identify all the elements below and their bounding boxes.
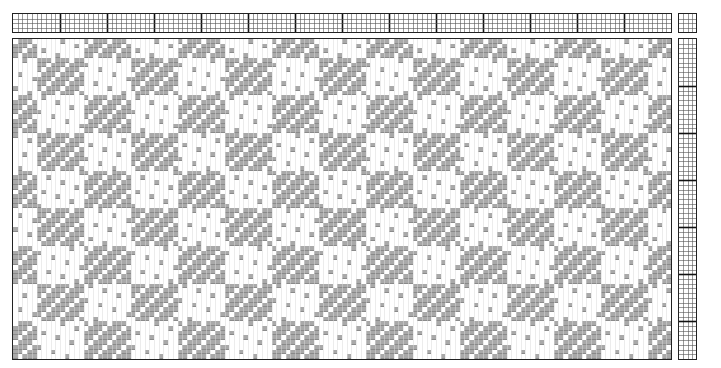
drawdown-grid xyxy=(12,38,672,360)
tieup-grid[interactable] xyxy=(678,13,697,33)
treadling-grid[interactable] xyxy=(678,38,697,360)
threading-grid[interactable] xyxy=(12,13,672,33)
